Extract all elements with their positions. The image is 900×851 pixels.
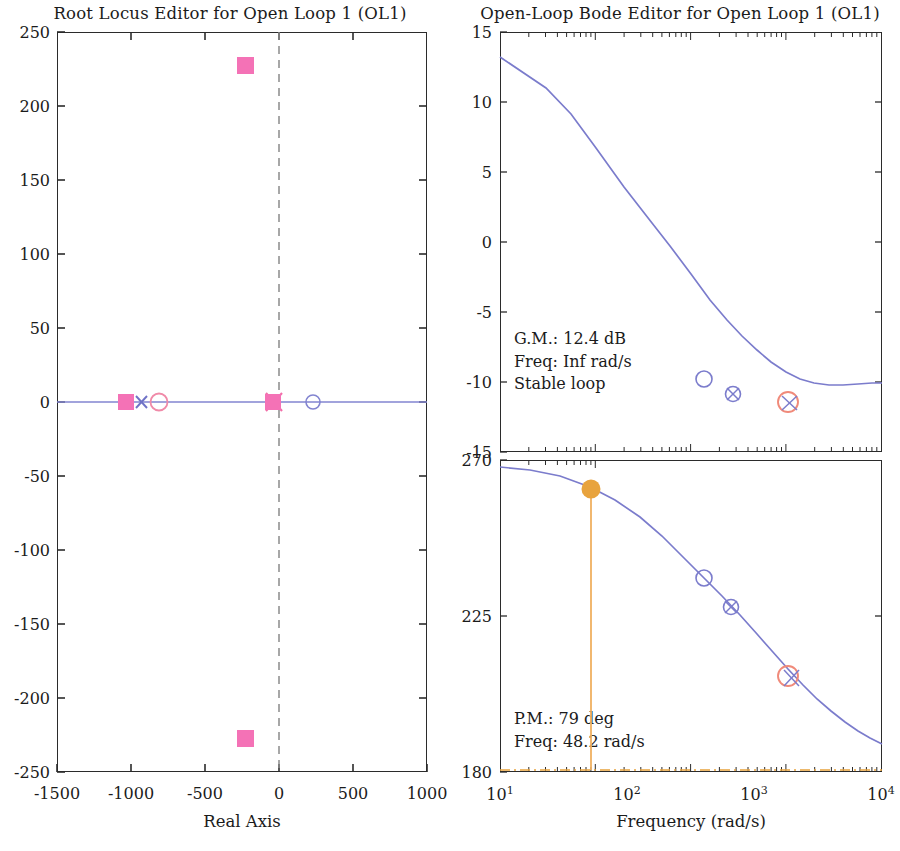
magnitude-curve <box>500 57 882 385</box>
phase-curve <box>500 467 882 744</box>
bode-plot <box>0 0 900 851</box>
mag-open-circle-1 <box>696 371 712 387</box>
phase-circle-cross-1 <box>724 600 739 615</box>
mag-circle-cross-1 <box>726 387 741 402</box>
mag-circle-cross-salmon <box>778 392 798 412</box>
figure-canvas: Root Locus Editor for Open Loop 1 (OL1) … <box>0 0 900 851</box>
mag-log-minor-ticks <box>529 32 877 452</box>
phase-margin-dot <box>582 480 601 499</box>
phase-log-minor-ticks <box>529 460 877 772</box>
